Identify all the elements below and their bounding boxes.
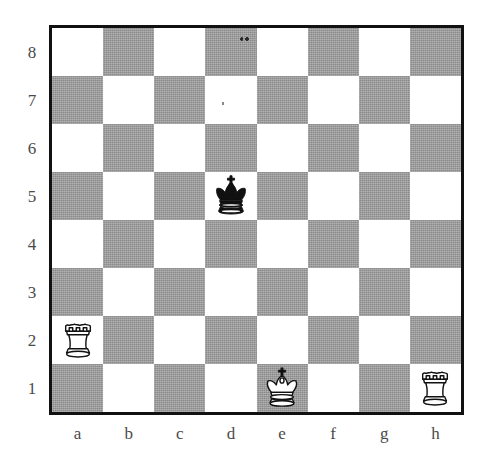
square-d8[interactable] bbox=[205, 28, 256, 76]
file-labels: a b c d e f g h bbox=[52, 418, 461, 448]
square-a2[interactable] bbox=[52, 316, 103, 364]
square-f2[interactable] bbox=[308, 316, 359, 364]
square-g5[interactable] bbox=[359, 172, 410, 220]
square-e6[interactable] bbox=[257, 124, 308, 172]
square-b8[interactable] bbox=[103, 28, 154, 76]
square-d5[interactable] bbox=[205, 172, 256, 220]
file-label-f: f bbox=[308, 418, 359, 448]
file-label-b: b bbox=[103, 418, 154, 448]
square-b6[interactable] bbox=[103, 124, 154, 172]
square-c4[interactable] bbox=[154, 220, 205, 268]
chess-board bbox=[49, 25, 464, 415]
square-f1[interactable] bbox=[308, 364, 359, 412]
square-h2[interactable] bbox=[410, 316, 461, 364]
square-f5[interactable] bbox=[308, 172, 359, 220]
square-a5[interactable] bbox=[52, 172, 103, 220]
square-d4[interactable] bbox=[205, 220, 256, 268]
square-f3[interactable] bbox=[308, 268, 359, 316]
square-e5[interactable] bbox=[257, 172, 308, 220]
square-h3[interactable] bbox=[410, 268, 461, 316]
square-c2[interactable] bbox=[154, 316, 205, 364]
square-d3[interactable] bbox=[205, 268, 256, 316]
file-label-h: h bbox=[410, 418, 461, 448]
square-e2[interactable] bbox=[257, 316, 308, 364]
square-e3[interactable] bbox=[257, 268, 308, 316]
square-h8[interactable] bbox=[410, 28, 461, 76]
square-c6[interactable] bbox=[154, 124, 205, 172]
rank-label-2: 2 bbox=[18, 316, 46, 364]
file-label-d: d bbox=[205, 418, 256, 448]
chess-diagram: 8 7 6 5 4 3 2 1 bbox=[0, 0, 483, 464]
rank-label-1: 1 bbox=[18, 364, 46, 412]
square-f6[interactable] bbox=[308, 124, 359, 172]
white-rook-piece[interactable] bbox=[56, 318, 100, 362]
square-g1[interactable] bbox=[359, 364, 410, 412]
square-h6[interactable] bbox=[410, 124, 461, 172]
square-d2[interactable] bbox=[205, 316, 256, 364]
square-a6[interactable] bbox=[52, 124, 103, 172]
board-grid bbox=[52, 28, 461, 412]
square-d1[interactable] bbox=[205, 364, 256, 412]
square-g4[interactable] bbox=[359, 220, 410, 268]
scan-speck-artifact bbox=[240, 37, 249, 41]
square-a3[interactable] bbox=[52, 268, 103, 316]
square-a8[interactable] bbox=[52, 28, 103, 76]
square-h7[interactable] bbox=[410, 76, 461, 124]
square-e4[interactable] bbox=[257, 220, 308, 268]
square-c7[interactable] bbox=[154, 76, 205, 124]
square-g8[interactable] bbox=[359, 28, 410, 76]
rank-label-6: 6 bbox=[18, 124, 46, 172]
rank-labels: 8 7 6 5 4 3 2 1 bbox=[18, 28, 46, 412]
square-b5[interactable] bbox=[103, 172, 154, 220]
square-e8[interactable] bbox=[257, 28, 308, 76]
square-a1[interactable] bbox=[52, 364, 103, 412]
square-d6[interactable] bbox=[205, 124, 256, 172]
square-e7[interactable] bbox=[257, 76, 308, 124]
square-h5[interactable] bbox=[410, 172, 461, 220]
square-b7[interactable] bbox=[103, 76, 154, 124]
square-g3[interactable] bbox=[359, 268, 410, 316]
square-b1[interactable] bbox=[103, 364, 154, 412]
square-c3[interactable] bbox=[154, 268, 205, 316]
scan-speck-artifact bbox=[221, 102, 225, 105]
square-a4[interactable] bbox=[52, 220, 103, 268]
square-b4[interactable] bbox=[103, 220, 154, 268]
square-f4[interactable] bbox=[308, 220, 359, 268]
file-label-e: e bbox=[257, 418, 308, 448]
square-g2[interactable] bbox=[359, 316, 410, 364]
square-f7[interactable] bbox=[308, 76, 359, 124]
white-king-piece[interactable] bbox=[260, 366, 304, 410]
square-h1[interactable] bbox=[410, 364, 461, 412]
rank-label-8: 8 bbox=[18, 28, 46, 76]
square-c5[interactable] bbox=[154, 172, 205, 220]
rank-label-4: 4 bbox=[18, 220, 46, 268]
file-label-a: a bbox=[52, 418, 103, 448]
square-c1[interactable] bbox=[154, 364, 205, 412]
white-rook-piece[interactable] bbox=[413, 366, 457, 410]
square-g7[interactable] bbox=[359, 76, 410, 124]
square-b3[interactable] bbox=[103, 268, 154, 316]
rank-label-5: 5 bbox=[18, 172, 46, 220]
square-h4[interactable] bbox=[410, 220, 461, 268]
square-a7[interactable] bbox=[52, 76, 103, 124]
file-label-c: c bbox=[154, 418, 205, 448]
square-c8[interactable] bbox=[154, 28, 205, 76]
file-label-g: g bbox=[359, 418, 410, 448]
square-d7[interactable] bbox=[205, 76, 256, 124]
square-e1[interactable] bbox=[257, 364, 308, 412]
square-f8[interactable] bbox=[308, 28, 359, 76]
rank-label-7: 7 bbox=[18, 76, 46, 124]
square-b2[interactable] bbox=[103, 316, 154, 364]
rank-label-3: 3 bbox=[18, 268, 46, 316]
black-king-piece[interactable] bbox=[209, 174, 253, 218]
square-g6[interactable] bbox=[359, 124, 410, 172]
